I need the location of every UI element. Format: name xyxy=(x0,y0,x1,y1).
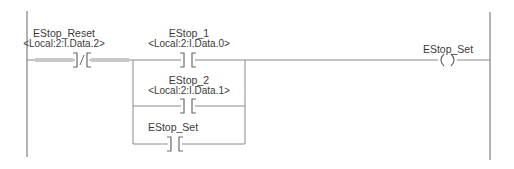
address-label-estop-reset: <Local:2:I.Data.2> xyxy=(23,38,105,50)
tag-label-estop-set-coil: EStop_Set xyxy=(423,43,473,55)
contact-estop-2[interactable] xyxy=(180,99,196,113)
contact-estop-reset[interactable] xyxy=(73,53,91,67)
address-label-estop-1: <Local:2:I.Data.0> xyxy=(148,38,230,50)
energized-highlight xyxy=(91,58,129,62)
ladder-rung: EStop_Reset <Local:2:I.Data.2> EStop_1 <… xyxy=(0,0,514,169)
address-label-estop-2: <Local:2:I.Data.1> xyxy=(148,85,230,97)
coil-estop-set[interactable] xyxy=(441,54,454,66)
contact-estop-1[interactable] xyxy=(180,53,196,67)
contact-estop-set[interactable] xyxy=(167,137,183,151)
tag-label-estop-set-contact: EStop_Set xyxy=(148,121,198,133)
energized-highlight xyxy=(35,58,73,62)
